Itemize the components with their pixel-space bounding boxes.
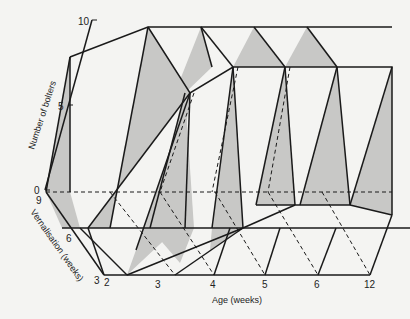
bolting-surface-diagram: 0 5 10 Number of bolters 9 6 3 Vernalisa… [0, 0, 410, 319]
x-tick-3: 3 [155, 279, 161, 290]
y-axis-label: Number of bolters [26, 79, 58, 151]
x-tick-5: 5 [262, 279, 268, 290]
x-tick-4: 4 [210, 279, 216, 290]
x-tick-2: 2 [104, 277, 110, 288]
z-tick-3: 3 [94, 275, 100, 286]
z-tick-6: 6 [66, 233, 72, 244]
z-tick-9: 9 [36, 195, 42, 206]
y-tick-10: 10 [78, 16, 90, 27]
x-tick-12: 12 [364, 279, 376, 290]
y-tick-5: 5 [58, 101, 64, 112]
x-axis-label: Age (weeks) [212, 295, 262, 305]
x-tick-6: 6 [314, 279, 320, 290]
